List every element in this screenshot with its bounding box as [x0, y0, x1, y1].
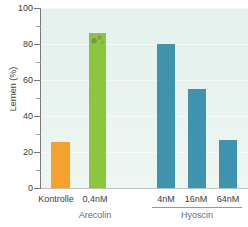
- bar-0-4nm: [89, 33, 106, 188]
- y-tick-60: [34, 80, 41, 81]
- gridline-60: [41, 80, 248, 81]
- gridline-100: [41, 8, 248, 9]
- gridline-20: [41, 152, 248, 153]
- x-axis-line: [40, 188, 248, 189]
- y-tick-label-60: 60: [0, 76, 33, 85]
- group-label-hyoscin: Hyoscin: [152, 210, 242, 220]
- gridline-80: [41, 44, 248, 45]
- y-tick-80: [34, 44, 41, 45]
- plot-area: [41, 8, 248, 188]
- x-tick-label-64nm: 64nM: [202, 194, 248, 204]
- y-tick-label-20: 20: [0, 148, 33, 157]
- y-tick-label-100: 100: [0, 4, 33, 13]
- group-rule-hyoscin: [152, 207, 242, 208]
- group-label-arecolin: Arecolin: [69, 210, 121, 220]
- bar-4nm: [157, 44, 175, 188]
- bar-chart-figure: Lernen (%) 100 80 60 40 20 0 Kontrolle 0…: [0, 0, 248, 227]
- y-tick-20: [34, 152, 41, 153]
- y-tick-label-80: 80: [0, 40, 33, 49]
- y-tick-minor-70: [36, 62, 41, 63]
- x-tick-label-0-4nm: 0,4nM: [69, 194, 121, 204]
- bar-64nm: [219, 140, 237, 188]
- gridline-40: [41, 116, 248, 117]
- bar-16nm: [188, 89, 206, 188]
- y-tick-0: [34, 188, 41, 189]
- y-tick-minor-90: [36, 26, 41, 27]
- y-tick-minor-50: [36, 98, 41, 99]
- y-tick-100: [34, 8, 41, 9]
- y-tick-minor-10: [36, 170, 41, 171]
- bar-texture-overlay: [89, 33, 106, 46]
- y-tick-40: [34, 116, 41, 117]
- y-tick-label-0: 0: [0, 184, 33, 193]
- bar-kontrolle: [51, 142, 70, 188]
- y-tick-label-40: 40: [0, 112, 33, 121]
- y-tick-minor-30: [36, 134, 41, 135]
